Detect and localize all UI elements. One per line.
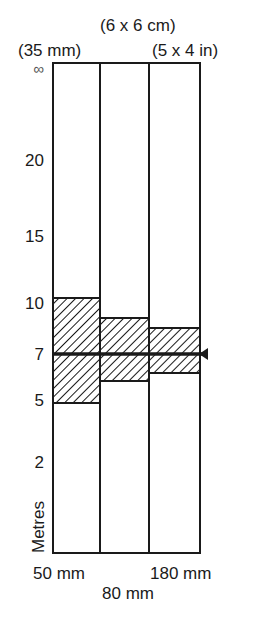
lens-label-middle: 80 mm bbox=[102, 585, 154, 602]
dof-range-80mm bbox=[100, 318, 149, 381]
depth-of-field-diagram bbox=[0, 0, 259, 620]
dof-range-180mm bbox=[149, 328, 200, 373]
dof-range-50mm bbox=[53, 298, 100, 403]
lens-label-left: 50 mm bbox=[33, 565, 85, 582]
lens-label-right: 180 mm bbox=[150, 565, 211, 582]
